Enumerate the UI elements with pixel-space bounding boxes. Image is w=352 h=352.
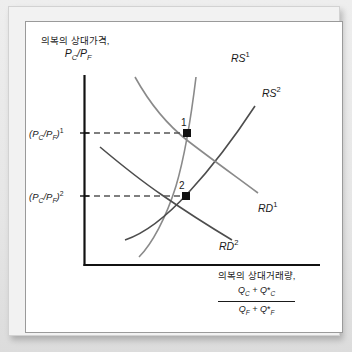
curve-rs1	[139, 77, 196, 257]
page-background: 의복의 상대가격, PC/PF 의복의 상대거래량, QC + Q*C QF +…	[0, 0, 352, 352]
x-axis-title: 의복의 상대거래량, QC + Q*C QF + Q*F	[218, 270, 295, 319]
y-axis-title-line2: PC/PF	[41, 47, 109, 64]
x-axis-fraction: QC + Q*C QF + Q*F	[218, 284, 295, 319]
y-tick-label-1: (PC/PF)1	[29, 127, 64, 141]
curve-rs2	[125, 106, 255, 240]
equilibrium-label-1: 1	[181, 117, 187, 128]
y-axis-title: 의복의 상대가격, PC/PF	[41, 34, 109, 64]
curve-label-rs2: RS2	[262, 85, 281, 99]
curve-rd2	[100, 147, 232, 240]
curve-rd1	[135, 77, 258, 193]
x-axis-title-line1: 의복의 상대거래량,	[218, 270, 295, 281]
curve-label-rd1: RD1	[258, 200, 277, 214]
y-axis-title-line1: 의복의 상대가격,	[41, 35, 109, 46]
equilibrium-label-2: 2	[179, 180, 185, 191]
curve-label-rs1: RS1	[231, 50, 250, 64]
curve-label-rd2: RD2	[219, 238, 238, 252]
x-axis-fraction-numerator: QC + Q*C	[218, 284, 295, 302]
x-axis-fraction-denominator: QF + Q*F	[218, 302, 295, 319]
equilibrium-marker-2	[182, 192, 190, 200]
y-tick-label-2: (PC/PF)2	[29, 190, 64, 204]
equilibrium-marker-1	[183, 129, 191, 137]
